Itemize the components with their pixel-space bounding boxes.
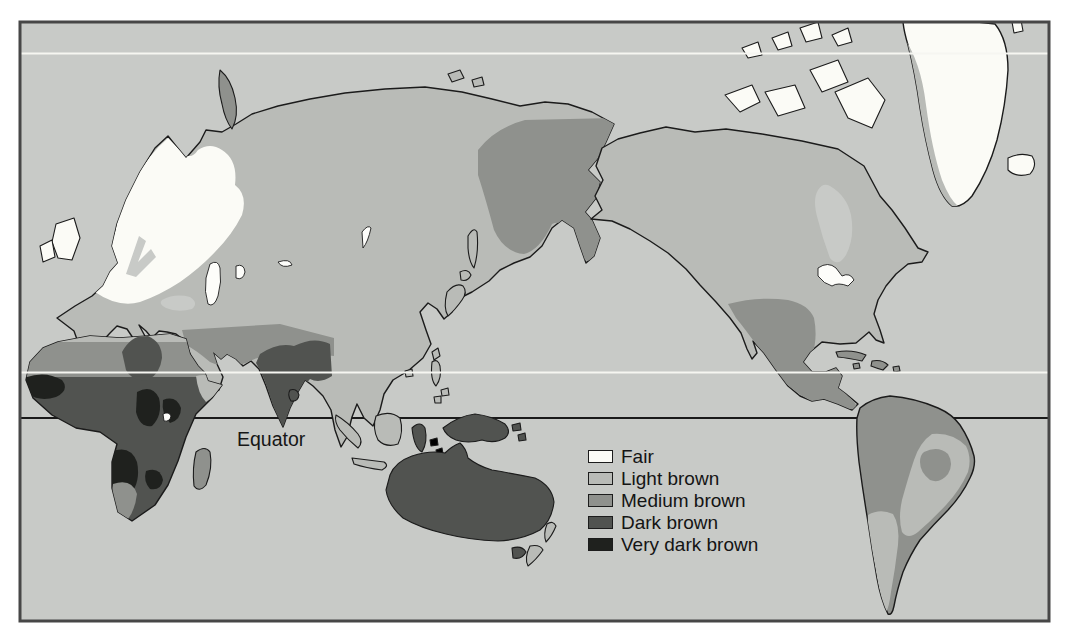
legend-label-light-brown: Light brown <box>621 469 719 488</box>
equator-label: Equator <box>237 428 306 450</box>
legend-item-light-brown: Light brown <box>588 468 758 490</box>
legend: Fair Light brown Medium brown Dark brown… <box>588 446 758 555</box>
legend-item-medium-brown: Medium brown <box>588 490 758 512</box>
lake-victoria <box>163 413 171 421</box>
legend-label-very-dark-brown: Very dark brown <box>621 535 758 554</box>
legend-swatch-dark-brown <box>588 516 613 529</box>
legend-label-dark-brown: Dark brown <box>621 513 718 532</box>
legend-swatch-medium-brown <box>588 494 613 507</box>
legend-swatch-light-brown <box>588 472 613 485</box>
legend-item-fair: Fair <box>588 446 758 468</box>
legend-label-fair: Fair <box>621 447 654 466</box>
region-iceland <box>1008 154 1035 175</box>
world-map: Equator <box>0 0 1066 636</box>
legend-swatch-fair <box>588 450 613 463</box>
legend-item-dark-brown: Dark brown <box>588 511 758 533</box>
region-sri-lanka <box>289 390 299 402</box>
figure-world-skin-color-map: Equator Fair Light brown Medium brown Da… <box>0 0 1066 636</box>
legend-label-medium-brown: Medium brown <box>621 491 746 510</box>
legend-item-very-dark-brown: Very dark brown <box>588 533 758 555</box>
legend-swatch-very-dark-brown <box>588 538 613 551</box>
